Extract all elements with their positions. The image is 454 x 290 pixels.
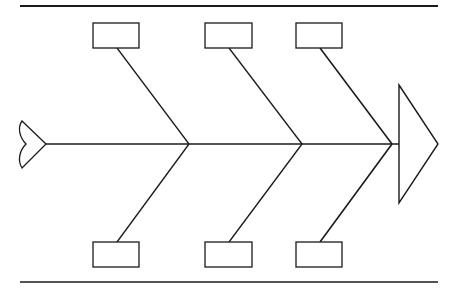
cause-top-2-rib-line xyxy=(229,48,302,144)
cause-bottom-1-label-box[interactable] xyxy=(93,242,139,267)
cause-bottom-1-rib-line xyxy=(117,144,189,242)
fish-tail-shape xyxy=(19,121,46,168)
cause-top-1-rib-line xyxy=(117,48,189,144)
cause-top-1-label-box[interactable] xyxy=(93,23,139,48)
cause-bottom-3-rib-line xyxy=(320,144,392,242)
cause-bottom-2-rib-line xyxy=(229,144,302,242)
diagram-svg xyxy=(0,0,454,290)
cause-bottom-3-label-box[interactable] xyxy=(296,242,342,267)
cause-bottom-2-label-box[interactable] xyxy=(205,242,252,267)
cause-top-3-rib-line xyxy=(320,48,392,144)
cause-top-2-label-box[interactable] xyxy=(205,23,252,48)
cause-categories xyxy=(93,23,392,267)
cause-top-3-label-box[interactable] xyxy=(296,23,342,48)
fish-head-effect[interactable] xyxy=(399,85,438,203)
fishbone-diagram xyxy=(0,0,454,290)
